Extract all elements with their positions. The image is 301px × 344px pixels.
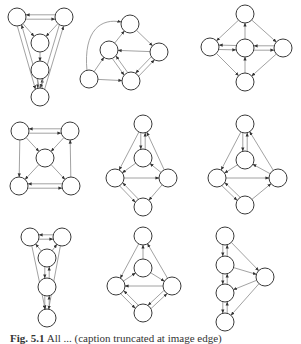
graph-edge: [139, 60, 155, 76]
graph-node: [122, 72, 140, 90]
graph-node: [159, 169, 177, 187]
graph-edge: [136, 57, 152, 73]
directed-graph-8: [107, 227, 181, 322]
graph-node: [31, 61, 49, 79]
graph-node: [21, 228, 39, 246]
graph-node: [38, 309, 56, 327]
graph-node: [150, 43, 168, 61]
graph-node: [216, 227, 234, 245]
graph-edge: [70, 140, 71, 177]
graph-node: [31, 88, 49, 106]
caption-text: All ... (caption truncated at image edge…: [47, 332, 222, 344]
graph-edge: [151, 294, 167, 309]
graph-node: [163, 277, 181, 295]
graph-edge: [252, 20, 277, 42]
graph-node: [236, 73, 254, 91]
graph-edge: [17, 26, 35, 89]
graph-edge: [231, 284, 259, 316]
directed-graph-2: [80, 15, 168, 90]
graph-edge: [252, 184, 271, 200]
graph-edge: [149, 185, 162, 200]
graph-node: [36, 149, 54, 167]
graph-edge: [25, 165, 39, 180]
graph-node: [236, 151, 254, 169]
graph-node: [38, 278, 56, 296]
graph-node: [11, 122, 29, 140]
graph-edge: [216, 53, 238, 75]
graph-edge: [253, 164, 270, 173]
graph-edge: [98, 79, 122, 80]
graph-edge: [124, 273, 136, 281]
graph-node: [256, 268, 274, 286]
graph-node: [31, 34, 49, 52]
graph-edge: [116, 56, 128, 72]
graph-edge: [252, 54, 277, 76]
graph-edge: [19, 140, 20, 177]
graph-edge: [151, 273, 165, 282]
graph-node: [269, 169, 287, 187]
graph-edge: [36, 244, 42, 251]
graph-edge: [122, 163, 135, 173]
graph-edge: [148, 291, 164, 306]
graph-edge: [51, 165, 65, 180]
graph-node: [236, 39, 254, 57]
graph-node: [236, 196, 254, 214]
graph-node: [107, 277, 125, 295]
graph-edge: [115, 31, 125, 43]
directed-graph-9: [216, 227, 274, 331]
graph-edge: [112, 59, 124, 75]
graph-node: [236, 5, 254, 23]
graph-node: [134, 259, 152, 277]
directed-graph-5: [106, 115, 177, 216]
graph-edge: [26, 138, 39, 152]
directed-graph-7: [21, 228, 71, 327]
graph-node: [216, 284, 234, 302]
graph-node: [208, 169, 226, 187]
graph-node: [134, 304, 152, 322]
graph-node: [61, 122, 79, 140]
graph-node: [134, 149, 152, 167]
graph-edge: [225, 183, 240, 198]
graph-node: [62, 177, 80, 195]
directed-graph-3: [201, 5, 292, 91]
graph-edge: [137, 30, 153, 45]
graph-node: [134, 227, 152, 245]
graph-edge: [45, 26, 64, 89]
graph-edge: [123, 183, 139, 199]
graph-node: [236, 115, 254, 133]
graph-edge: [217, 20, 239, 41]
graph-node: [134, 115, 152, 133]
graph-edge: [94, 57, 104, 71]
graph-node: [134, 198, 152, 216]
directed-graph-6: [208, 115, 287, 214]
graph-edge: [124, 291, 138, 305]
graph-node: [216, 313, 234, 331]
graph-edge: [222, 186, 237, 201]
graph-node: [216, 256, 234, 274]
graph-edge: [120, 186, 136, 202]
directed-graph-1: [8, 8, 73, 106]
graph-node: [10, 177, 28, 195]
graph-edge: [52, 244, 57, 250]
caption-label: Fig. 5.1: [10, 332, 45, 344]
graph-node: [38, 249, 56, 267]
graph-edge: [234, 268, 257, 275]
graph-node: [55, 8, 73, 26]
graph-node: [106, 169, 124, 187]
graph-node: [121, 15, 139, 33]
graph-node: [80, 70, 98, 88]
graphs-layer: [8, 5, 292, 331]
graph-node: [100, 41, 118, 59]
figure-caption: Fig. 5.1 All ... (caption truncated at i…: [10, 332, 222, 344]
graph-edge: [233, 280, 256, 289]
directed-graph-4: [10, 122, 80, 195]
graph-edge: [225, 165, 238, 173]
graph-node: [274, 39, 292, 57]
graph-node: [8, 8, 26, 26]
graph-edge: [51, 138, 64, 152]
graph-edge: [231, 242, 258, 270]
graph-edge: [118, 50, 150, 51]
graph-node: [201, 38, 219, 56]
graph-node: [53, 228, 71, 246]
